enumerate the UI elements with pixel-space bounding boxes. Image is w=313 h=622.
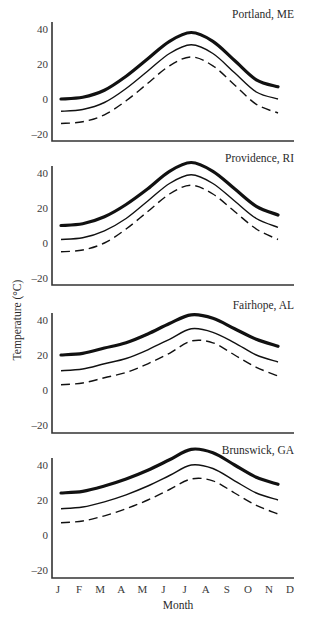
temperature-chart: Portland, ME40200–20Providence, RI40200–… xyxy=(0,0,313,622)
y-tick-label: 0 xyxy=(43,384,49,396)
y-tick-label: 20 xyxy=(37,494,49,506)
panel-brunswick-ga: Brunswick, GA40200–20 xyxy=(31,444,295,578)
panel-providence-ri: Providence, RI40200–20 xyxy=(31,152,295,285)
y-tick-label: 20 xyxy=(37,349,49,361)
y-tick-label: 0 xyxy=(43,529,49,541)
panel-title: Portland, ME xyxy=(232,8,294,21)
month-label: A xyxy=(202,583,210,595)
panel-title: Fairhope, AL xyxy=(233,299,294,312)
month-label: M xyxy=(138,583,148,595)
month-label: S xyxy=(224,583,230,595)
axis-lines xyxy=(52,313,294,433)
panels: Portland, ME40200–20Providence, RI40200–… xyxy=(31,8,295,578)
series-mean-line xyxy=(61,175,278,240)
y-tick-label: –20 xyxy=(31,128,49,140)
y-tick-label: –20 xyxy=(31,272,49,284)
y-tick-label: 0 xyxy=(43,237,49,249)
series-min-line xyxy=(61,478,278,522)
month-label: N xyxy=(265,583,273,595)
y-tick-label: 20 xyxy=(37,58,49,70)
series-mean-line xyxy=(61,45,278,111)
y-tick-label: –20 xyxy=(31,419,49,431)
month-label: O xyxy=(244,583,252,595)
month-label: J xyxy=(161,583,166,595)
month-label: D xyxy=(286,583,294,595)
y-tick-label: 20 xyxy=(37,202,49,214)
series-min-line xyxy=(61,340,278,385)
month-label: J xyxy=(182,583,187,595)
y-tick-label: –20 xyxy=(31,564,49,576)
month-axis-labels: JFMAMJJASOND xyxy=(56,583,294,595)
y-tick-label: 0 xyxy=(43,93,49,105)
y-tick-label: 40 xyxy=(37,314,49,326)
y-tick-label: 40 xyxy=(37,459,49,471)
panel-fairhope-al: Fairhope, AL40200–20 xyxy=(31,299,295,433)
month-label: F xyxy=(76,583,82,595)
panel-portland-me: Portland, ME40200–20 xyxy=(31,8,295,141)
series-min-line xyxy=(61,185,278,251)
panel-title: Providence, RI xyxy=(225,152,294,165)
axis-lines xyxy=(52,458,294,578)
series-min-line xyxy=(61,57,278,124)
y-axis-title: Temperature (°C) xyxy=(11,279,24,360)
axis-lines xyxy=(52,166,294,285)
y-tick-label: 40 xyxy=(37,167,49,179)
month-label: M xyxy=(95,583,105,595)
y-tick-label: 40 xyxy=(37,23,49,35)
x-axis-title: Month xyxy=(163,599,194,611)
panel-title: Brunswick, GA xyxy=(222,444,295,457)
month-label: A xyxy=(117,583,125,595)
month-label: J xyxy=(56,583,61,595)
